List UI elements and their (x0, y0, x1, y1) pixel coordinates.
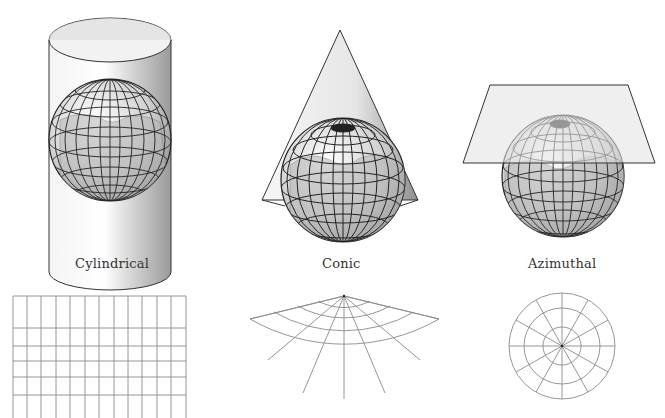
map-projections-diagram: Cylindrical Conic Azimuthal (0, 0, 665, 418)
label-cylindrical: Cylindrical (75, 256, 149, 271)
label-azimuthal: Azimuthal (528, 256, 596, 271)
globe-conic (262, 118, 418, 245)
diagram-illustrations (0, 0, 665, 418)
label-conic: Conic (322, 256, 361, 271)
plane-illustration (463, 85, 655, 163)
cylindrical-grid (13, 296, 186, 418)
conic-grid (250, 295, 439, 399)
azimuthal-grid (509, 293, 615, 399)
